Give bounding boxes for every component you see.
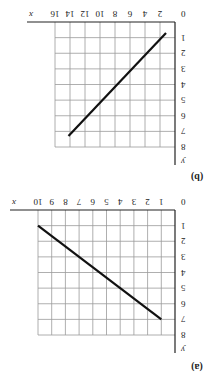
y-tick-label: 2 bbox=[181, 236, 186, 246]
x-tick-label: 6 bbox=[127, 9, 132, 19]
y-tick-label: 6 bbox=[181, 299, 186, 309]
x-tick-label: 16 bbox=[50, 9, 60, 19]
y-axis-label: y bbox=[181, 157, 186, 167]
x-tick-label: 2 bbox=[145, 197, 150, 207]
y-tick-label: 8 bbox=[181, 330, 186, 340]
y-tick-label: 1 bbox=[181, 221, 186, 231]
y-tick-label: 4 bbox=[181, 268, 186, 278]
y-tick-label: 7 bbox=[181, 126, 186, 136]
y-tick-label: 5 bbox=[181, 283, 186, 293]
x-axis-label: x bbox=[29, 10, 34, 20]
x-tick-label: 4 bbox=[142, 9, 147, 19]
y-tick-label: 2 bbox=[181, 48, 186, 58]
x-tick-label: 12 bbox=[81, 9, 90, 19]
y-tick-label: 4 bbox=[181, 80, 186, 90]
chart-panel-a: 12345678910123456780xy(a) bbox=[10, 197, 203, 373]
y-tick-label: 7 bbox=[181, 314, 186, 324]
x-tick-label: 1 bbox=[159, 197, 164, 207]
y-tick-label: 6 bbox=[181, 111, 186, 121]
y-tick-label: 5 bbox=[181, 95, 186, 105]
x-tick-label: 5 bbox=[104, 197, 109, 207]
x-tick-label: 8 bbox=[63, 197, 68, 207]
x-tick-label: 7 bbox=[76, 197, 81, 207]
y-tick-label: 3 bbox=[181, 252, 186, 262]
x-tick-label: 2 bbox=[158, 9, 163, 19]
panel-label: (b) bbox=[191, 171, 203, 183]
origin-label: 0 bbox=[181, 197, 186, 207]
x-tick-label: 8 bbox=[112, 9, 117, 19]
x-axis-label: x bbox=[12, 198, 17, 208]
x-tick-label: 4 bbox=[117, 197, 122, 207]
x-tick-label: 3 bbox=[131, 197, 136, 207]
x-tick-label: 14 bbox=[65, 9, 75, 19]
origin-label: 0 bbox=[181, 9, 186, 19]
chart-panel-b: 246810121416123456780xy(b) bbox=[27, 9, 203, 183]
x-tick-label: 9 bbox=[49, 197, 54, 207]
x-tick-label: 6 bbox=[90, 197, 95, 207]
figure: 12345678910123456780xy(a) 24681012141612… bbox=[0, 0, 223, 378]
x-tick-label: 10 bbox=[33, 197, 43, 207]
panel-label: (a) bbox=[191, 361, 203, 373]
y-tick-label: 1 bbox=[181, 33, 186, 43]
y-tick-label: 3 bbox=[181, 64, 186, 74]
x-tick-label: 10 bbox=[95, 9, 105, 19]
y-tick-label: 8 bbox=[181, 142, 186, 152]
y-axis-label: y bbox=[181, 345, 186, 355]
